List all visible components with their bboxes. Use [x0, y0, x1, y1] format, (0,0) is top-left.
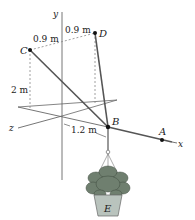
foliage	[86, 166, 130, 198]
x-axis-label: x	[178, 139, 183, 149]
point-b-label: B	[111, 116, 119, 127]
dim-b-distance: 1.2 m	[64, 124, 106, 137]
z-axis: z	[8, 116, 62, 133]
svg-text:1.2 m: 1.2 m	[71, 125, 97, 135]
dim-d-offset: 0.9 m	[65, 25, 91, 35]
point-d-label: D	[98, 28, 107, 39]
dashed-lines	[30, 33, 95, 110]
point-a-label: A	[158, 126, 166, 137]
cable-bc	[30, 50, 108, 127]
dim-c-height: 2 m	[11, 85, 29, 95]
z-axis-label: z	[8, 123, 14, 133]
statics-diagram: y z x 0.9 m 0.9 m 2 m	[0, 0, 195, 220]
hanging-plant: E	[86, 150, 130, 216]
y-axis-label: y	[52, 9, 59, 19]
cable-bd	[95, 33, 108, 127]
point-e-label: E	[103, 203, 112, 214]
point-c-label: C	[20, 45, 28, 56]
dim-c-offset: 0.9 m	[33, 34, 59, 44]
plane-line	[18, 100, 117, 107]
